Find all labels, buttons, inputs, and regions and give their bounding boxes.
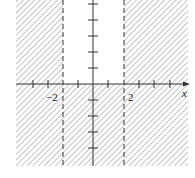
shaded-region [16,0,188,166]
region-graph [0,0,195,178]
tick-label-pos2: 2 [128,92,134,103]
x-axis-label: x [182,88,187,99]
tick-label-neg2: −2 [46,92,58,103]
